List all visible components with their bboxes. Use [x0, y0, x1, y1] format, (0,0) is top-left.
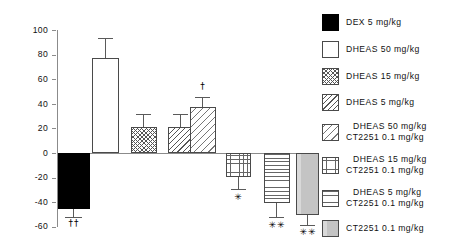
figure-bar-chart: % change from vehicle control 100 80 60 …	[0, 0, 458, 247]
plot-area: % change from vehicle control 100 80 60 …	[0, 0, 318, 247]
y-tick-mark-neg60	[52, 227, 56, 228]
y-axis-tick-labels: 100 80 60 40 20 0 -20 -40 -60	[20, 0, 48, 247]
significance-mark-bar-5: †	[190, 82, 216, 91]
bar-dheas-50-ct2251	[190, 107, 216, 153]
legend-swatch-horizontal-icon	[322, 190, 339, 207]
legend-swatch-grid-icon	[322, 157, 339, 174]
errorbar-cap-dheas-15	[136, 114, 151, 115]
legend-item-dheas-50: DHEAS 50 mg/kg	[322, 41, 420, 58]
y-tick-neg40: -40	[20, 198, 48, 207]
errorbar-line-dheas-5-ct2251	[276, 203, 277, 217]
legend-label-dheas-5-ct2251-line1: DHEAS 5 mg/kg	[346, 187, 424, 198]
legend: DEX 5 mg/kg DHEAS 50 mg/kg DHEAS 15 mg/k…	[322, 0, 458, 247]
legend-swatch-crosshatch-icon	[322, 68, 339, 85]
legend-label-dheas-15-ct2251-line1: DHEAS 15 mg/kg	[346, 154, 427, 165]
y-tick-80: 80	[20, 50, 48, 59]
y-tick-mark-60	[52, 79, 56, 80]
significance-mark-bar-7: ✳✳	[262, 221, 292, 230]
significance-mark-bar-1: ††	[59, 219, 89, 228]
errorbar-line-dheas-5	[180, 114, 181, 127]
legend-item-dheas-15: DHEAS 15 mg/kg	[322, 68, 420, 85]
bar-dheas-5-ct2251	[264, 153, 290, 203]
legend-item-dheas-5-ct2251: DHEAS 5 mg/kg CT2251 0.1 mg/kg	[322, 187, 424, 209]
y-tick-mark-80	[52, 55, 56, 56]
errorbar-cap-dheas-5-ct2251	[269, 217, 284, 218]
y-tick-100: 100	[20, 26, 48, 35]
errorbar-line-ct2251	[307, 215, 308, 225]
significance-mark-bar-6: ✳	[226, 193, 251, 202]
y-tick-mark-neg20	[52, 178, 56, 179]
errorbar-cap-dheas-50-ct2251	[195, 97, 210, 98]
legend-item-ct2251: CT2251 0.1 mg/kg	[322, 220, 424, 237]
y-tick-mark-40	[52, 104, 56, 105]
errorbar-cap-dheas-5	[173, 114, 188, 115]
y-tick-mark-20	[52, 128, 56, 129]
y-tick-neg20: -20	[20, 173, 48, 182]
bar-dheas-15	[131, 127, 157, 153]
legend-label-dheas-50: DHEAS 50 mg/kg	[346, 44, 420, 54]
errorbar-line-dheas-15	[143, 114, 144, 127]
errorbar-cap-dheas-15-ct2251	[231, 189, 246, 190]
y-tick-mark-0	[52, 153, 56, 154]
y-tick-40: 40	[20, 100, 48, 109]
errorbar-cap-ct2251	[300, 225, 315, 226]
legend-swatch-wide-diagonal-icon	[322, 124, 339, 141]
y-tick-mark-neg40	[52, 202, 56, 203]
legend-swatch-diagonal-icon	[322, 94, 339, 111]
legend-label-dheas-15-ct2251-line2: CT2251 0.1 mg/kg	[346, 165, 427, 176]
legend-label-dheas-5-ct2251-line2: CT2251 0.1 mg/kg	[346, 198, 424, 209]
errorbar-line-dheas-50-ct2251	[202, 97, 203, 107]
legend-label-dex-5: DEX 5 mg/kg	[346, 17, 402, 27]
y-tick-mark-100	[52, 30, 56, 31]
bar-ct2251	[296, 153, 319, 215]
legend-label-dheas-5: DHEAS 5 mg/kg	[346, 97, 414, 107]
legend-swatch-gray-icon	[322, 220, 339, 237]
legend-label-ct2251: CT2251 0.1 mg/kg	[346, 223, 424, 233]
y-tick-60: 60	[20, 75, 48, 84]
errorbar-cap-dheas-50	[98, 38, 113, 39]
errorbar-line-dheas-50	[105, 38, 106, 58]
y-tick-20: 20	[20, 124, 48, 133]
legend-label-dheas-50-ct2251-line2: CT2251 0.1 mg/kg	[346, 132, 427, 143]
y-tick-0: 0	[20, 149, 48, 158]
legend-item-dheas-15-ct2251: DHEAS 15 mg/kg CT2251 0.1 mg/kg	[322, 154, 427, 176]
y-tick-neg60: -60	[20, 222, 48, 231]
significance-mark-bar-8: ✳✳	[293, 228, 323, 237]
bar-dheas-50	[92, 58, 119, 153]
legend-item-dheas-50-ct2251: DHEAS 50 mg/kg CT2251 0.1 mg/kg	[322, 121, 427, 143]
legend-swatch-open-icon	[322, 41, 339, 58]
legend-item-dex-5: DEX 5 mg/kg	[322, 14, 402, 31]
legend-item-dheas-5: DHEAS 5 mg/kg	[322, 94, 414, 111]
legend-swatch-solid-icon	[322, 14, 339, 31]
legend-label-dheas-15: DHEAS 15 mg/kg	[346, 71, 420, 81]
bar-dheas-15-ct2251	[226, 153, 251, 177]
bar-dex-5	[58, 153, 90, 209]
legend-label-dheas-50-ct2251-line1: DHEAS 50 mg/kg	[346, 121, 427, 132]
errorbar-line-dheas-15-ct2251	[238, 177, 239, 189]
errorbar-line-dex-5	[73, 209, 74, 217]
